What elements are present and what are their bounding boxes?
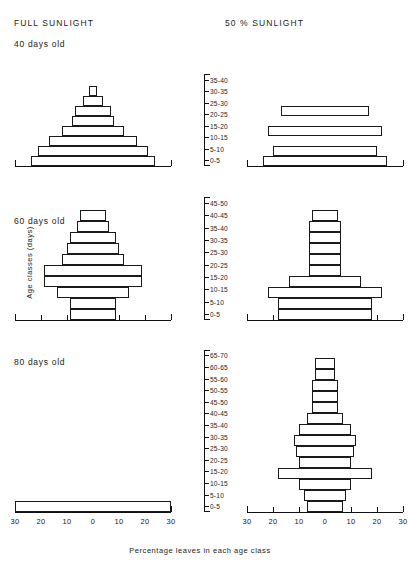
class-axis-ticklabel: 20-25 [210, 261, 228, 268]
x-axis-ticklabel: 20 [268, 517, 277, 526]
x-axis-tick [145, 315, 146, 320]
bar [70, 232, 117, 243]
class-axis-ticklabel: 55-60 [210, 375, 228, 382]
class-axis-ticklabel: 30-35 [210, 433, 228, 440]
bar [315, 358, 336, 369]
class-axis-ticklabel: 40-45 [210, 410, 228, 417]
class-axis-ticklabel: 35-40 [210, 421, 228, 428]
bar [67, 243, 119, 254]
x-axis [15, 512, 171, 513]
class-axis-tick [204, 126, 209, 127]
class-axis-tick [204, 355, 209, 356]
x-axis-ticklabel: 20 [372, 517, 381, 526]
bar [312, 402, 338, 413]
y-axis-title: Age classes (days) [25, 208, 34, 318]
class-axis-ticklabel: 5-10 [210, 145, 224, 152]
class-axis-tick [204, 511, 210, 512]
bar [299, 479, 351, 490]
bar [315, 369, 336, 380]
class-axis-tick [204, 390, 209, 391]
bar [263, 156, 388, 166]
x-axis-tick [15, 160, 16, 166]
x-axis-tick [247, 160, 248, 166]
class-axis-tick [204, 367, 209, 368]
bar [296, 446, 353, 457]
bar [89, 86, 97, 96]
x-axis-ticklabel: 30 [10, 517, 19, 526]
bar [304, 490, 346, 501]
header-half-sunlight: 50 % SUNLIGHT [225, 18, 304, 28]
bar [62, 126, 124, 136]
class-axis-ticklabel: 10-15 [210, 134, 228, 141]
x-axis-title: Percentage leaves in each age class [0, 546, 400, 555]
class-axis-ticklabel: 0-5 [210, 310, 220, 317]
bar [44, 276, 143, 287]
class-axis-tick [204, 74, 210, 75]
bar [83, 96, 104, 106]
class-axis [204, 74, 205, 166]
bar [268, 287, 382, 298]
x-axis-ticklabel: 30 [398, 517, 407, 526]
x-axis-tick [171, 160, 172, 166]
bar [75, 106, 111, 116]
bar [281, 106, 369, 116]
bar [268, 126, 382, 136]
bar [80, 210, 106, 221]
panel-title-60-days: 60 days old [14, 216, 65, 226]
class-axis-ticklabel: 40-45 [210, 212, 228, 219]
class-axis-ticklabel: 10-15 [210, 479, 228, 486]
bar [307, 413, 343, 424]
x-axis-tick [15, 314, 16, 320]
x-axis-tick [403, 314, 404, 320]
class-axis-ticklabel: 5-10 [210, 491, 224, 498]
class-axis-ticklabel: 5-10 [210, 298, 224, 305]
class-axis-tick [204, 160, 209, 161]
class-axis-tick [204, 240, 209, 241]
bar [312, 391, 338, 402]
bar [278, 309, 372, 320]
x-axis-tick [377, 315, 378, 320]
x-axis [15, 320, 171, 321]
class-axis-ticklabel: 15-20 [210, 468, 228, 475]
class-axis-tick [204, 252, 209, 253]
bar [70, 298, 117, 309]
bar [309, 221, 340, 232]
x-axis-ticklabel: 10 [294, 517, 303, 526]
class-axis-ticklabel: 45-50 [210, 200, 228, 207]
x-axis [247, 166, 403, 167]
x-axis-ticklabel: 0 [91, 517, 96, 526]
x-axis-ticklabel: 20 [140, 517, 149, 526]
x-axis-tick [403, 160, 404, 166]
class-axis-tick [204, 114, 209, 115]
class-axis-ticklabel: 0-5 [210, 503, 220, 510]
bar [49, 136, 137, 146]
class-axis-tick [204, 402, 209, 403]
x-axis-tick [247, 314, 248, 320]
class-axis-tick [204, 203, 209, 204]
bar [72, 116, 114, 126]
class-axis-ticklabel: 15-20 [210, 273, 228, 280]
class-axis-ticklabel: 0-5 [210, 157, 220, 164]
x-axis-tick [299, 507, 300, 512]
class-axis-tick [204, 483, 209, 484]
bar [62, 254, 124, 265]
bar [309, 265, 340, 276]
x-axis-tick [351, 507, 352, 512]
class-axis-tick [204, 137, 209, 138]
class-axis-ticklabel: 10-15 [210, 286, 228, 293]
class-axis-tick [204, 289, 209, 290]
class-axis-ticklabel: 15-20 [210, 122, 228, 129]
x-axis [247, 512, 403, 513]
class-axis-tick [204, 314, 209, 315]
class-axis [204, 197, 205, 320]
bar [15, 501, 171, 512]
class-axis-ticklabel: 25-30 [210, 249, 228, 256]
class-axis-ticklabel: 45-50 [210, 398, 228, 405]
x-axis-tick [67, 315, 68, 320]
class-axis-tick [204, 448, 209, 449]
x-axis-ticklabel: 30 [166, 517, 175, 526]
bar [299, 457, 351, 468]
x-axis-tick [273, 315, 274, 320]
x-axis-ticklabel: 10 [114, 517, 123, 526]
